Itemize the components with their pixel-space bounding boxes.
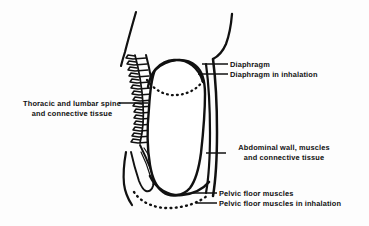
abdominal-wall-outline [213,59,217,196]
label-pelvic-floor-muscles: Pelvic floor muscles [219,189,293,199]
abdominal-wall-inner-line [206,64,210,193]
label-diaphragm-in-inhalation: Diaphragm in inhalation [230,70,318,80]
label-pelvic-floor-muscles-in-inhalation: Pelvic floor muscles in inhalation [219,199,341,209]
label-thoracic-lumbar-spine: Thoracic and lumbar spine and connective… [10,99,134,118]
ribcage-curve [213,14,232,59]
abdominal-cavity [148,60,205,195]
posterior-trunk-outline-lower [124,152,132,205]
label-diaphragm: Diaphragm [230,60,270,70]
label-spine-line-1: Thoracic and lumbar spine [23,99,121,108]
label-abdominal-line-2: and connective tissue [228,153,340,163]
label-abdominal-wall: Abdominal wall, muscles and connective t… [228,143,340,162]
label-spine-line-2: and connective tissue [10,109,134,119]
anatomy-diagram: Thoracic and lumbar spine and connective… [0,0,369,226]
label-abdominal-line-1: Abdominal wall, muscles [238,143,329,152]
